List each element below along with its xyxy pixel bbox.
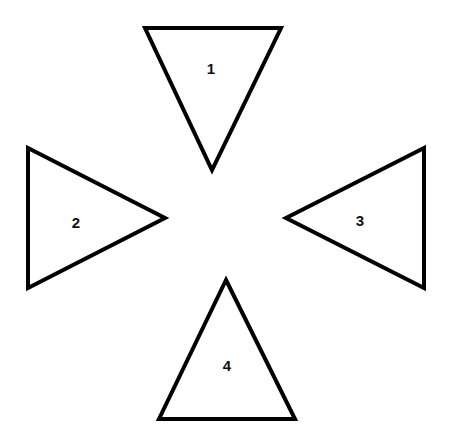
triangle-2-group: 2 bbox=[28, 148, 165, 288]
triangle-4-up bbox=[159, 280, 295, 419]
triangle-1-label: 1 bbox=[207, 60, 215, 77]
triangle-2-right bbox=[28, 148, 165, 288]
triangle-3-label: 3 bbox=[356, 212, 364, 229]
triangle-1-group: 1 bbox=[145, 28, 281, 170]
triangle-3-group: 3 bbox=[286, 148, 424, 288]
triangle-4-label: 4 bbox=[223, 357, 232, 374]
triangles-diagram: 1 2 3 4 bbox=[0, 0, 451, 441]
triangle-4-group: 4 bbox=[159, 280, 295, 419]
triangle-1-down bbox=[145, 28, 281, 170]
triangle-2-label: 2 bbox=[72, 214, 80, 231]
